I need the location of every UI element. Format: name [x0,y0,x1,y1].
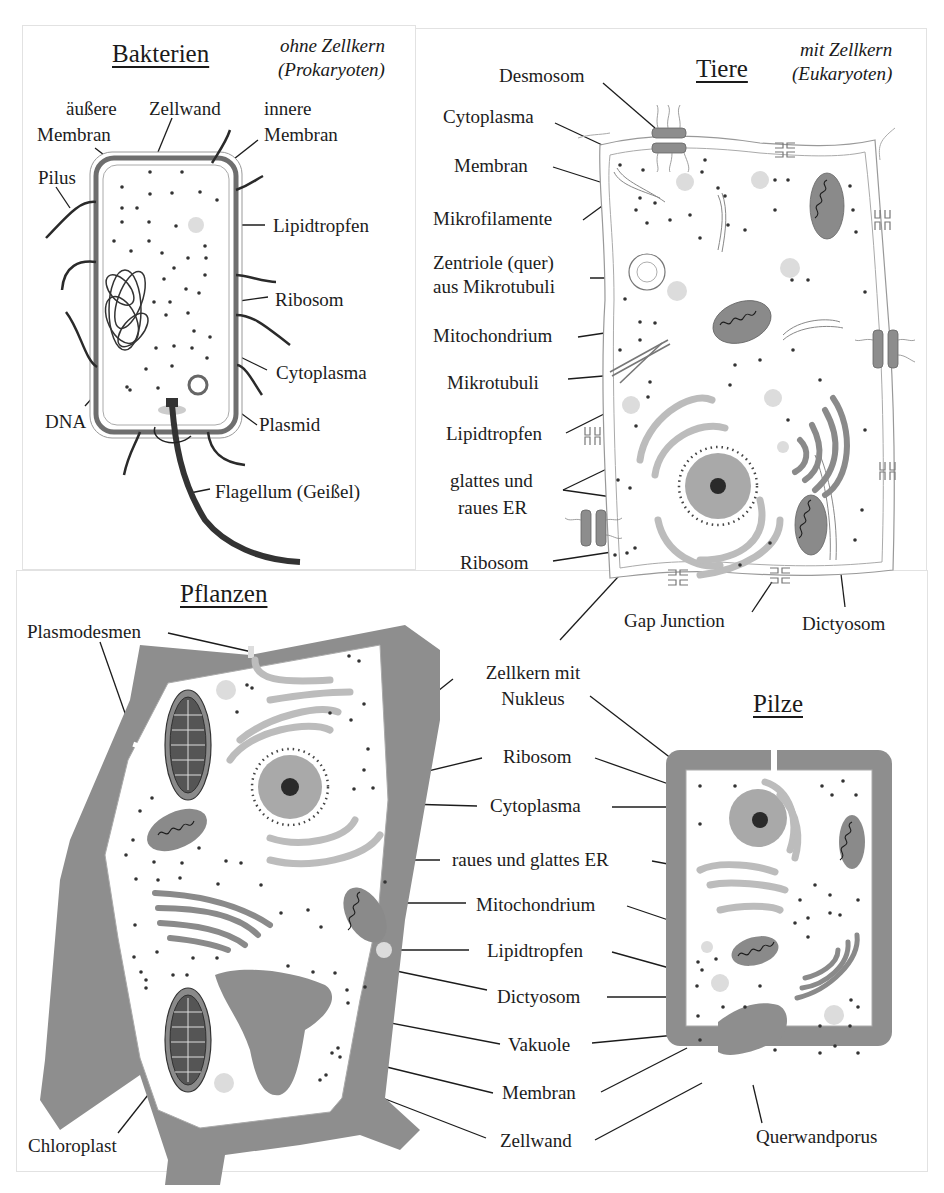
label-cytoplasm-bacteria: Cytoplasma [276,362,367,383]
label-membrane-animal: Membran [454,155,528,176]
label-cytoplasm-shared: Cytoplasma [490,795,581,816]
label-microtubules: Mikrotubuli [447,372,539,393]
fungi-title: Pilze [753,690,803,718]
label-mitochondrion-animal: Mitochondrium [433,325,552,346]
bacteria-note: ohne Zellkern (Prokaryoten) [278,34,385,82]
animal-note-line2: (Eukaryoten) [792,62,892,86]
label-cell-wall-bacteria: Zellwand [149,98,221,119]
label-microfilaments: Mikrofilamente [433,208,552,229]
label-lipid-animal: Lipidtropfen [446,423,542,444]
bacteria-title: Bakterien [112,40,209,68]
label-lipid-bacteria: Lipidtropfen [273,215,369,236]
label-dictyosome-shared: Dictyosom [497,986,580,1007]
label-nucleus-2: Nukleus [463,688,603,709]
label-cytoplasm-animal: Cytoplasma [443,106,534,127]
label-inner-membrane-1: innere [264,98,311,119]
animal-cell [565,105,915,585]
label-ribosome-bacteria: Ribosom [275,289,344,310]
label-nucleus-1: Zellkern mit [463,662,603,683]
label-outer-membrane-2: Membran [37,124,111,145]
label-er-animal-1: glattes und [450,470,533,491]
label-plasmid: Plasmid [259,414,320,435]
label-desmosome: Desmosom [499,65,585,86]
label-cross-wall-pore: Querwandporus [756,1126,877,1147]
label-ribosome-shared: Ribosom [503,746,572,767]
label-gap-junction: Gap Junction [624,610,725,631]
label-er-animal-2: raues ER [458,497,527,518]
label-inner-membrane-2: Membran [264,124,338,145]
label-cell-wall-shared: Zellwand [500,1130,572,1151]
label-plasmodesmata: Plasmodesmen [27,621,141,642]
label-lipid-shared: Lipidtropfen [487,940,583,961]
label-vacuole: Vakuole [508,1034,570,1055]
label-mitochondrion-shared: Mitochondrium [476,894,595,915]
label-centriole-1: Zentriole (quer) [433,252,554,273]
label-flagellum: Flagellum (Geißel) [215,481,360,502]
label-outer-membrane-1: äußere [66,98,117,119]
label-dna: DNA [45,411,86,432]
plant-title: Pflanzen [180,580,267,608]
bacteria-note-line2: (Prokaryoten) [278,58,385,82]
label-dictyosome-animal: Dictyosom [802,613,885,634]
plant-cell [40,625,440,1185]
label-membrane-shared: Membran [502,1082,576,1103]
animal-note: mit Zellkern (Eukaryoten) [792,38,892,86]
bacteria-note-line1: ohne Zellkern [278,34,385,58]
animal-title: Tiere [696,55,748,83]
label-pilus: Pilus [38,167,76,188]
fungus-cell [666,750,892,1055]
animal-note-line1: mit Zellkern [792,38,892,62]
label-centriole-2: aus Mikrotubuli [433,276,555,297]
label-chloroplast: Chloroplast [28,1135,117,1156]
label-ribosome-animal: Ribosom [460,552,529,573]
label-er-shared: raues und glattes ER [452,849,609,870]
cell-diagram-artwork [0,0,944,1193]
